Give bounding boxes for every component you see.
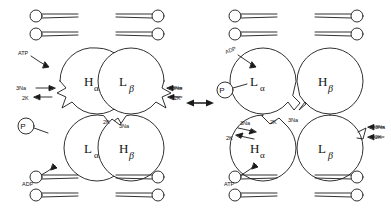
subunit-greek-upper-left: α [260,83,265,93]
subunit-greek-upper-right: β [128,83,134,94]
ligand-label-adp: ADP [22,181,34,187]
subunit-greek-upper-right: β [327,83,333,94]
subunit-label-upper-left: L [250,74,258,89]
ion-label-outer-right-k: 2K [375,134,382,140]
ligand-label-atp: ATP [224,181,235,187]
ion-label-cleft-na: 3Na [288,117,299,123]
ion-label-outer-right-na: 3Na [172,85,183,91]
subunit-greek-lower-right: β [327,150,333,161]
ligand-label-phosphate: P [219,86,224,95]
ion-label-outer-right-k: 2K [174,95,181,101]
ion-label-cleft-na: 3Na [119,123,130,129]
subunit-upper-right [297,48,363,114]
ion-label-outer-left-k: 2K [22,95,29,101]
subunit-greek-lower-left: α [260,150,265,160]
ion-label-outer-right-na: 3Na [375,124,386,130]
subunit-label-upper-left: H [84,74,93,89]
subunit-label-lower-right: L [318,141,326,156]
ion-label-cleft-k: 2K [270,119,277,125]
ion-label-outer-left-k: 2K [226,135,233,141]
subunit-label-lower-left: L [84,141,92,156]
na-k-atpase-diagram: H α L β L α H β ATP ADP P 3Na 2K 3Na 2K … [0,0,391,209]
subunit-label-lower-left: H [250,141,259,156]
subunit-greek-lower-right: β [128,150,134,161]
subunit-label-lower-right: H [119,141,128,156]
ligand-label-atp: ATP [18,50,29,56]
subunit-label-upper-right: H [318,74,327,89]
subunit-label-upper-right: L [119,74,127,89]
subunit-greek-upper-left: α [94,83,99,93]
ligand-label-phosphate: P [20,122,25,131]
subunit-greek-lower-left: α [94,150,99,160]
ion-label-outer-left-na: 3Na [240,120,251,126]
ion-label-cleft-k: 2K [103,119,110,125]
ion-label-outer-left-na: 3Na [16,85,27,91]
subunit-lower-right [297,115,363,181]
